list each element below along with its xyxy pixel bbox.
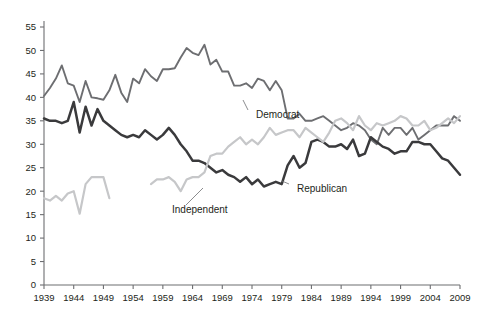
y-tick-label: 30 <box>25 139 36 150</box>
y-tick-label: 20 <box>25 186 36 197</box>
y-tick-label: 25 <box>25 162 36 173</box>
x-tick-label: 1994 <box>360 292 381 303</box>
series-line-independent <box>44 177 109 214</box>
y-tick-label: 0 <box>31 279 36 290</box>
y-tick-label: 35 <box>25 115 36 126</box>
x-tick-label: 2009 <box>449 292 470 303</box>
leader-line-democrat <box>243 100 248 110</box>
party-identification-chart: 0510152025303540455055 19391944194919541… <box>0 0 482 315</box>
y-axis: 0510152025303540455055 <box>25 21 44 290</box>
x-tick-label: 1944 <box>63 292 84 303</box>
chart-canvas: 0510152025303540455055 19391944194919541… <box>0 0 482 315</box>
series-line-independent <box>151 116 460 191</box>
x-tick-label: 1974 <box>241 292 262 303</box>
y-tick-label: 40 <box>25 92 36 103</box>
y-tick-label: 55 <box>25 21 36 32</box>
x-tick-label: 1969 <box>212 292 233 303</box>
series-label-independent: Independent <box>172 204 228 215</box>
x-axis: 1939194419491954195919641969197419791984… <box>33 285 470 303</box>
x-tick-label: 1954 <box>123 292 144 303</box>
series-label-republican: Republican <box>297 183 347 194</box>
y-tick-label: 45 <box>25 68 36 79</box>
x-tick-label: 1959 <box>152 292 173 303</box>
series-line-democrat <box>44 45 460 144</box>
y-tick-label: 15 <box>25 209 36 220</box>
x-tick-label: 1979 <box>271 292 292 303</box>
leader-line-independent <box>186 188 203 205</box>
series-lines <box>44 45 460 214</box>
y-tick-label: 10 <box>25 232 36 243</box>
series-line-republican <box>44 102 460 186</box>
x-tick-label: 1984 <box>301 292 322 303</box>
series-label-democrat: Democrat <box>256 109 300 120</box>
x-tick-label: 1999 <box>390 292 411 303</box>
x-tick-label: 1964 <box>182 292 203 303</box>
x-tick-label: 2004 <box>420 292 441 303</box>
x-tick-label: 1939 <box>33 292 54 303</box>
x-tick-label: 1949 <box>93 292 114 303</box>
y-tick-label: 50 <box>25 45 36 56</box>
x-tick-label: 1989 <box>331 292 352 303</box>
y-tick-label: 5 <box>31 256 36 267</box>
